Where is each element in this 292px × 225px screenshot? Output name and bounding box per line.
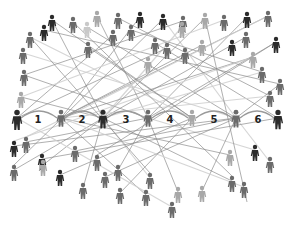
person-body [48, 20, 56, 31]
person-body [56, 175, 64, 186]
person-icon [19, 48, 27, 64]
person-head [176, 187, 180, 191]
person-head [19, 92, 23, 96]
person-head [161, 14, 165, 18]
person-icon [93, 11, 101, 27]
person-body [101, 177, 109, 188]
person-body [71, 151, 79, 162]
person-icon [69, 17, 77, 33]
person-body [114, 18, 122, 29]
person-body [114, 170, 122, 181]
person-head [85, 22, 89, 26]
person-body [272, 42, 280, 53]
person-icon [17, 92, 25, 108]
person-head [22, 70, 26, 74]
person-head [170, 202, 174, 206]
person-body [146, 178, 154, 189]
person-head [73, 146, 77, 150]
person-head [12, 141, 16, 145]
person-head [275, 110, 280, 115]
person-body [69, 22, 77, 33]
person-body [159, 19, 167, 30]
person-head [118, 188, 122, 192]
person-head [200, 186, 204, 190]
person-icon [71, 146, 79, 162]
person-body [266, 96, 274, 107]
person-icon [198, 186, 206, 202]
person-head [228, 150, 232, 154]
person-head [203, 13, 207, 17]
person-icon [266, 157, 274, 173]
person-head [251, 52, 255, 56]
person-body [39, 165, 47, 176]
person-head [274, 37, 278, 41]
connection-line [148, 118, 255, 150]
person-head [181, 16, 185, 20]
person-head [42, 25, 46, 29]
person-head [234, 110, 239, 115]
person-icon [20, 70, 28, 86]
network-diagram: 1 2 3 4 5 6 [0, 0, 292, 225]
chain-label-1: 1 [35, 114, 42, 125]
chain-person-icon [12, 110, 23, 130]
person-body [17, 97, 25, 108]
connection-line [103, 118, 232, 181]
person-icon [220, 15, 228, 31]
person-body [40, 30, 48, 41]
person-head [21, 48, 25, 52]
person-head [242, 182, 246, 186]
person-head [230, 40, 234, 44]
person-icon [276, 79, 284, 95]
person-head [129, 25, 133, 29]
person-icon [163, 43, 171, 59]
person-head [12, 165, 16, 169]
person-icon [56, 170, 64, 186]
person-head [190, 110, 194, 114]
person-icon [228, 40, 236, 56]
connection-line [61, 45, 202, 118]
person-head [71, 17, 75, 21]
person-head [200, 40, 204, 44]
person-icon [114, 13, 122, 29]
person-head [278, 79, 282, 83]
person-icon [264, 11, 272, 27]
person-icon [40, 25, 48, 41]
person-body [220, 20, 228, 31]
person-head [146, 57, 150, 61]
chain-label-3: 3 [123, 114, 130, 125]
person-body [79, 188, 87, 199]
person-body [198, 191, 206, 202]
person-head [81, 183, 85, 187]
person-icon [93, 155, 101, 171]
person-body [174, 192, 182, 203]
person-head [59, 110, 64, 115]
person-icon [48, 15, 56, 31]
person-icon [10, 141, 18, 157]
connection-line [118, 18, 270, 96]
person-head [244, 32, 248, 36]
person-head [24, 137, 28, 141]
person-body [168, 207, 176, 218]
person-icon [242, 32, 250, 48]
person-head [40, 154, 44, 158]
person-head [100, 110, 105, 115]
person-icon [101, 172, 109, 188]
person-icon [26, 32, 34, 48]
person-icon [79, 183, 87, 199]
person-head [95, 11, 99, 15]
person-icon [240, 182, 248, 198]
person-head [111, 30, 115, 34]
person-body [116, 193, 124, 204]
person-head [268, 91, 272, 95]
person-body [19, 53, 27, 64]
chain-person-icon [273, 110, 283, 129]
person-body [12, 116, 23, 130]
person-body [273, 116, 283, 129]
person-body [249, 57, 257, 68]
person-icon [226, 150, 234, 166]
person-body [242, 37, 250, 48]
person-head [14, 110, 20, 116]
person-head [146, 110, 151, 115]
person-head [266, 11, 270, 15]
person-head [28, 32, 32, 36]
